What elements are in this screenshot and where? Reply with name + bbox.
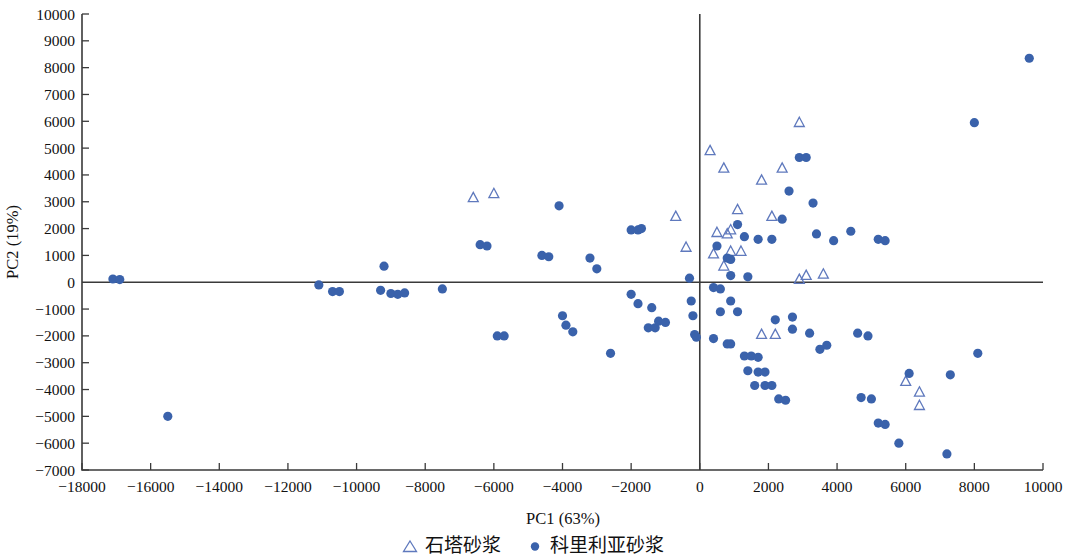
x-tick-label: −8000 [405,478,445,495]
x-tick-label: −16000 [127,478,175,495]
x-tick-label: 8000 [959,478,990,495]
data-point-triangle [757,329,767,338]
y-axis-ticks: −7000−6000−5000−4000−3000−2000−100001000… [35,6,89,479]
data-point-circle [802,153,811,162]
y-tick-label: 1000 [44,247,75,264]
legend-label-0: 石塔砂浆 [425,536,501,555]
data-point-circle [733,307,742,316]
y-tick-label: 3000 [44,193,75,210]
data-point-circle [942,449,951,458]
data-point-circle [568,327,577,336]
data-point-triangle [914,400,924,409]
data-point-circle [716,284,725,293]
data-point-triangle [489,188,499,197]
data-point-circle [716,307,725,316]
x-axis-title: PC1 (63%) [526,509,600,528]
data-point-circle [379,262,388,271]
data-point-circle [163,412,172,421]
y-tick-label: 10000 [36,6,75,23]
chart-root: −18000−16000−14000−12000−10000−8000−6000… [0,0,1066,557]
y-tick-label: −5000 [35,408,75,425]
legend-entry-korea[interactable]: 科里利亚砂浆 [527,536,664,555]
scatter-plot: −18000−16000−14000−12000−10000−8000−6000… [0,0,1066,557]
data-point-circle [788,313,797,322]
data-point-triangle [757,175,767,184]
legend-entry-stone-tower[interactable]: 石塔砂浆 [402,536,501,555]
data-point-circle [778,215,787,224]
y-tick-label: 5000 [44,140,75,157]
data-point-circle [376,286,385,295]
data-point-triangle [719,163,729,172]
data-point-circle [314,280,323,289]
data-point-circle [687,296,696,305]
data-point-triangle [468,192,478,201]
data-point-circle [946,370,955,379]
data-point-circle [712,241,721,250]
y-tick-label: −7000 [35,462,75,479]
data-point-circle [822,341,831,350]
data-point-circle [767,381,776,390]
data-point-circle [500,331,509,340]
data-point-circle [733,220,742,229]
y-tick-label: −6000 [35,435,75,452]
x-tick-label: −12000 [264,478,312,495]
data-point-circle [808,199,817,208]
data-point-triangle [914,387,924,396]
y-tick-label: 6000 [44,113,75,130]
data-point-circle [726,339,735,348]
data-point-circle [1025,54,1034,63]
data-point-triangle [705,145,715,154]
data-point-circle [973,349,982,358]
data-point-triangle [794,117,804,126]
data-point-circle [905,369,914,378]
series-0 [468,117,924,409]
x-tick-label: −18000 [58,478,106,495]
data-point-circle [709,334,718,343]
legend-triangle-icon [402,539,418,553]
data-point-circle [812,229,821,238]
x-tick-label: 2000 [753,478,784,495]
x-tick-label: −10000 [333,478,381,495]
data-point-circle [554,201,563,210]
data-point-circle [750,381,759,390]
y-tick-label: −4000 [35,381,75,398]
data-point-circle [726,255,735,264]
data-point-circle [438,284,447,293]
data-point-circle [558,311,567,320]
data-point-triangle [733,204,743,213]
data-point-circle [881,236,890,245]
plot-frame-path [82,14,1043,470]
data-point-circle [740,232,749,241]
data-point-circle [829,236,838,245]
x-tick-label: 0 [696,478,704,495]
x-tick-label: −4000 [543,478,583,495]
data-point-circle [760,367,769,376]
x-tick-label: −2000 [611,478,651,495]
data-point-circle [585,253,594,262]
data-point-triangle [770,329,780,338]
x-tick-label: 10000 [1024,478,1063,495]
y-tick-label: −1000 [35,301,75,318]
data-points-layer [108,54,1034,459]
data-point-circle [743,366,752,375]
data-point-triangle [736,246,746,255]
y-tick-label: −3000 [35,354,75,371]
data-point-circle [592,264,601,273]
data-point-circle [857,393,866,402]
data-point-triangle [777,163,787,172]
y-tick-label: −2000 [35,327,75,344]
series-1 [108,54,1034,459]
data-point-circle [771,315,780,324]
data-point-circle [685,274,694,283]
x-axis-ticks: −18000−16000−14000−12000−10000−8000−6000… [58,463,1062,495]
data-point-circle [784,186,793,195]
x-tick-label: −14000 [196,478,244,495]
data-point-triangle [671,211,681,220]
y-tick-label: 8000 [44,59,75,76]
x-tick-label: −6000 [474,478,514,495]
data-point-circle [726,271,735,280]
x-tick-label: 4000 [822,478,853,495]
data-point-circle [726,296,735,305]
data-point-circle [743,272,752,281]
data-point-circle [637,224,646,233]
